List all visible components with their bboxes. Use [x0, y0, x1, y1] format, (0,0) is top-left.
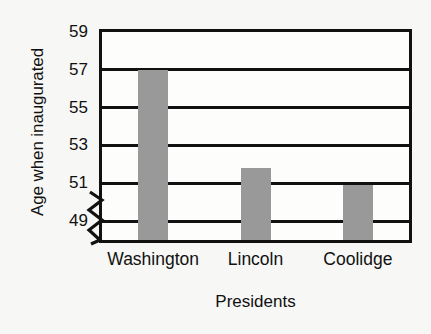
y-axis-title: Age when inaugurated [28, 22, 48, 242]
axis-break-zigzag-icon [84, 190, 106, 246]
x-axis-tick-labels: WashingtonLincolnCoolidge [86, 248, 426, 274]
bar [241, 168, 271, 240]
x-axis-title: Presidents [99, 292, 412, 312]
y-tick-label: 57 [52, 61, 88, 78]
plot-area [99, 29, 412, 243]
bar-chart-figure: Age when inaugurated 595755535149 Washin… [0, 0, 431, 334]
x-tick-label: Coolidge [293, 248, 423, 270]
y-axis-tick-labels: 595755535149 [52, 0, 88, 334]
bar [343, 185, 373, 240]
bar [138, 70, 168, 240]
y-tick-label: 55 [52, 99, 88, 116]
y-tick-label: 49 [52, 212, 88, 229]
y-tick-label: 59 [52, 23, 88, 40]
y-tick-label: 51 [52, 174, 88, 191]
plot-inner [102, 32, 409, 240]
y-tick-label: 53 [52, 136, 88, 153]
